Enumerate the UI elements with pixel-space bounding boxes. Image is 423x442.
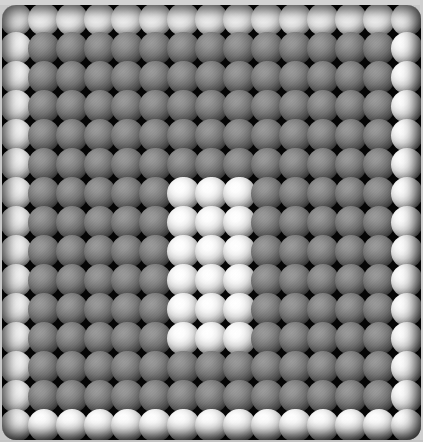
lattice-cell: [337, 92, 365, 121]
lattice-cell: [142, 382, 170, 411]
lattice-cell: [142, 34, 170, 63]
lattice-cell: [337, 5, 365, 34]
lattice-cell: [309, 324, 337, 353]
lattice-cell: [309, 150, 337, 179]
lattice-cell: [30, 92, 58, 121]
lattice-cell: [30, 266, 58, 295]
lattice-cell: [170, 324, 198, 353]
lattice-cell: [58, 353, 86, 382]
lattice-cell: [2, 179, 30, 208]
lattice-cell: [114, 266, 142, 295]
lattice-cell: [365, 237, 393, 266]
lattice-cell: [2, 237, 30, 266]
lattice-cell: [281, 63, 309, 92]
lattice-cell: [393, 411, 421, 440]
lattice-cell: [58, 295, 86, 324]
lattice-cell: [365, 208, 393, 237]
lattice-cell: [30, 150, 58, 179]
lattice-cell: [142, 237, 170, 266]
lattice-cell: [30, 121, 58, 150]
lattice-cell: [86, 411, 114, 440]
lattice-cell: [393, 92, 421, 121]
lattice-cell: [225, 208, 253, 237]
lattice-cell: [86, 34, 114, 63]
lattice-cell: [281, 179, 309, 208]
lattice-cell: [309, 34, 337, 63]
lattice-cell: [337, 121, 365, 150]
lattice-cell: [198, 295, 226, 324]
lattice-cell: [142, 353, 170, 382]
lattice-cell: [142, 121, 170, 150]
lattice-cell: [393, 382, 421, 411]
lattice-cell: [393, 295, 421, 324]
lattice-cell: [142, 5, 170, 34]
lattice-cell: [225, 92, 253, 121]
lattice-cell: [142, 266, 170, 295]
lattice-cell: [58, 411, 86, 440]
lattice-cell: [281, 208, 309, 237]
lattice-cell: [58, 179, 86, 208]
lattice-cell: [337, 237, 365, 266]
lattice-panel: [2, 5, 421, 440]
lattice-cell: [393, 34, 421, 63]
lattice-cell: [114, 411, 142, 440]
lattice-cell: [225, 295, 253, 324]
lattice-cell: [393, 179, 421, 208]
lattice-cell: [86, 5, 114, 34]
lattice-cell: [58, 5, 86, 34]
lattice-cell: [58, 237, 86, 266]
lattice-cell: [114, 237, 142, 266]
lattice-cell: [365, 295, 393, 324]
lattice-cell: [2, 382, 30, 411]
lattice-cell: [253, 353, 281, 382]
lattice-cell: [198, 382, 226, 411]
lattice-cell: [114, 324, 142, 353]
lattice-cell: [30, 5, 58, 34]
lattice-cell: [365, 179, 393, 208]
lattice-cell: [142, 92, 170, 121]
lattice-cell: [365, 411, 393, 440]
lattice-cell: [337, 150, 365, 179]
lattice-cell: [58, 34, 86, 63]
lattice-cell: [86, 121, 114, 150]
lattice-cell: [114, 121, 142, 150]
lattice-cell: [281, 295, 309, 324]
lattice-cell: [337, 266, 365, 295]
lattice-cell: [114, 295, 142, 324]
lattice-cell: [58, 121, 86, 150]
bright-sphere: [391, 409, 421, 440]
lattice-cell: [365, 34, 393, 63]
lattice-cell: [309, 208, 337, 237]
lattice-cell: [170, 5, 198, 34]
lattice-cell: [337, 179, 365, 208]
lattice-cell: [225, 411, 253, 440]
lattice-cell: [253, 266, 281, 295]
lattice-cell: [86, 150, 114, 179]
lattice-cell: [337, 208, 365, 237]
lattice-cell: [281, 150, 309, 179]
lattice-cell: [365, 324, 393, 353]
lattice-cell: [142, 324, 170, 353]
lattice-cell: [2, 63, 30, 92]
lattice-cell: [114, 382, 142, 411]
lattice-cell: [393, 63, 421, 92]
lattice-cell: [198, 121, 226, 150]
lattice-cell: [170, 353, 198, 382]
lattice-cell: [253, 121, 281, 150]
lattice-cell: [225, 324, 253, 353]
lattice-cell: [253, 5, 281, 34]
lattice-cell: [337, 353, 365, 382]
lattice-cell: [253, 208, 281, 237]
lattice-cell: [2, 5, 30, 34]
lattice-cell: [225, 63, 253, 92]
lattice-cell: [281, 34, 309, 63]
lattice-cell: [393, 324, 421, 353]
sphere-lattice-grid: [2, 5, 421, 440]
lattice-cell: [170, 92, 198, 121]
lattice-cell: [281, 92, 309, 121]
lattice-cell: [225, 121, 253, 150]
lattice-cell: [225, 179, 253, 208]
lattice-cell: [225, 266, 253, 295]
lattice-cell: [114, 63, 142, 92]
lattice-cell: [86, 208, 114, 237]
